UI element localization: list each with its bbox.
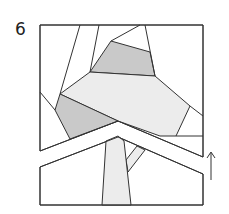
arrow-up-icon — [207, 152, 215, 180]
quilt-block-diagram — [0, 0, 229, 214]
